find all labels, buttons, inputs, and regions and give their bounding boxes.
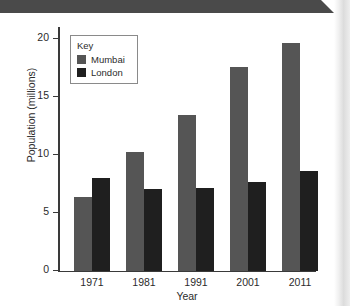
bar-london-1981 <box>144 189 162 271</box>
legend-item-london: London <box>77 67 132 78</box>
y-tick-label-0: 0 <box>43 263 49 275</box>
bar-mumbai-2011 <box>282 43 300 271</box>
y-tick-label-10: 10 <box>37 147 49 159</box>
y-tick-20: 20 <box>53 38 58 39</box>
y-tick-label-20: 20 <box>37 31 49 43</box>
legend-swatch-london-icon <box>77 68 86 77</box>
bar-london-2001 <box>248 182 266 271</box>
x-tick-label-1981: 1981 <box>114 276 174 288</box>
y-tick-label-15: 15 <box>37 89 49 101</box>
bar-mumbai-2001 <box>230 67 248 270</box>
x-axis-label: Year <box>58 290 316 302</box>
y-tick-15: 15 <box>53 96 58 97</box>
page-corner-fold-icon <box>321 0 334 13</box>
x-tick-label-2001: 2001 <box>218 276 278 288</box>
bar-london-1991 <box>196 188 214 271</box>
y-axis-line <box>58 27 60 272</box>
bar-london-2011 <box>300 171 318 271</box>
legend-swatch-mumbai-icon <box>77 55 86 64</box>
bar-london-1971 <box>92 178 110 271</box>
x-tick-label-1971: 1971 <box>62 276 122 288</box>
legend-title: Key <box>77 40 132 51</box>
y-tick-5: 5 <box>53 212 58 213</box>
legend-label-mumbai: Mumbai <box>91 54 125 65</box>
bar-mumbai-1981 <box>126 152 144 270</box>
y-tick-0: 0 <box>53 270 58 271</box>
y-tick-10: 10 <box>53 154 58 155</box>
x-tick-label-2011: 2011 <box>270 276 330 288</box>
legend-label-london: London <box>91 67 123 78</box>
x-axis-line <box>58 271 316 273</box>
page-binding-edge <box>334 0 350 306</box>
legend-item-mumbai: Mumbai <box>77 54 132 65</box>
bar-mumbai-1971 <box>74 197 92 270</box>
y-tick-label-5: 5 <box>43 205 49 217</box>
x-tick-label-1991: 1991 <box>166 276 226 288</box>
bar-mumbai-1991 <box>178 115 196 271</box>
chart-legend: Key Mumbai London <box>70 35 138 84</box>
bar-chart: Population (millions) 0 5 10 15 20 <box>0 13 334 306</box>
scanned-page: Population (millions) 0 5 10 15 20 <box>0 0 350 306</box>
page-header-bar <box>0 0 334 13</box>
y-axis-label: Population (millions) <box>25 40 37 190</box>
